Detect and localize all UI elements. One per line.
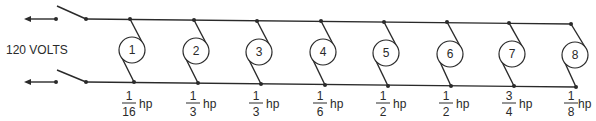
hp-numerator: 1 [568, 89, 575, 103]
motor-5: 512hp [373, 20, 407, 119]
bus-wire-bottom [86, 82, 576, 87]
motor-number: 7 [509, 47, 516, 61]
junction-dot [386, 84, 390, 88]
hp-denominator: 3 [253, 105, 260, 119]
motor-number: 1 [129, 43, 136, 57]
hp-denominator: 4 [506, 105, 513, 119]
hp-numerator: 1 [253, 89, 260, 103]
motor-number: 6 [447, 47, 454, 61]
voltage-label: 120 VOLTS [6, 43, 68, 57]
junction-dot [196, 81, 200, 85]
hp-unit: hp [330, 97, 344, 111]
hp-denominator: 16 [122, 105, 136, 119]
motor-7: 734hp [499, 21, 533, 119]
junction-dot [319, 19, 323, 23]
hp-unit: hp [266, 97, 280, 111]
motor-6: 612hp [437, 20, 470, 119]
motor-8: 818hp [562, 22, 592, 119]
hp-numerator: 1 [317, 89, 324, 103]
junction-dot [128, 17, 132, 21]
motor-3: 313hp [246, 19, 280, 119]
supply-line-bottom [24, 79, 58, 85]
junction-dot [512, 84, 516, 88]
hp-unit: hp [139, 97, 153, 111]
switch-bottom [57, 70, 88, 84]
parallel-motor-circuit-diagram: 120 VOLTS 1116hp213hp313hp416hp512hp612h… [0, 0, 596, 121]
motor-number: 3 [256, 45, 263, 59]
arrow-left-icon [24, 79, 31, 85]
hp-numerator: 1 [443, 89, 450, 103]
junction-dot [132, 80, 136, 84]
junction-dot [507, 21, 511, 25]
hp-denominator: 2 [443, 105, 450, 119]
hp-numerator: 1 [380, 89, 387, 103]
hp-unit: hp [203, 97, 217, 111]
junction-dot [574, 85, 578, 89]
motor-number: 8 [572, 48, 579, 62]
motor-4: 416hp [310, 19, 344, 119]
hp-unit: hp [578, 97, 592, 111]
motor-number: 4 [320, 45, 327, 59]
bus-wire-top [86, 19, 572, 24]
hp-unit: hp [393, 97, 407, 111]
arrow-left-icon [24, 16, 31, 22]
junction-dot [259, 82, 263, 86]
motor-1: 1116hp [119, 17, 153, 119]
hp-numerator: 1 [126, 89, 133, 103]
hp-denominator: 3 [190, 105, 197, 119]
hp-denominator: 2 [380, 105, 387, 119]
junction-dot [449, 84, 453, 88]
hp-unit: hp [519, 97, 533, 111]
hp-numerator: 1 [190, 89, 197, 103]
junction-dot [382, 20, 386, 24]
motor-number: 5 [383, 46, 390, 60]
supply-line-top [24, 16, 58, 22]
junction-dot [569, 22, 573, 26]
motor-number: 2 [193, 44, 200, 58]
switch-top [57, 6, 88, 21]
junction-dot [255, 19, 259, 23]
junction-dot [192, 18, 196, 22]
hp-numerator: 3 [506, 89, 513, 103]
hp-unit: hp [456, 97, 470, 111]
junction-dot [323, 83, 327, 87]
hp-denominator: 8 [568, 105, 575, 119]
hp-denominator: 6 [317, 105, 324, 119]
motor-2: 213hp [183, 18, 217, 119]
junction-dot [445, 20, 449, 24]
